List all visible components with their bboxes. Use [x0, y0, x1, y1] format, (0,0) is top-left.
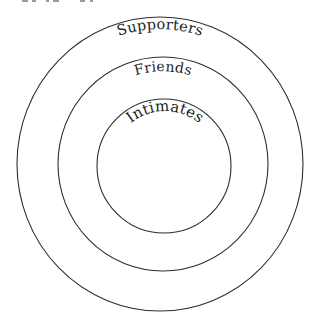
clipped-text-fragment: [22, 0, 93, 2]
label-friends: Friends: [132, 58, 194, 78]
inner-circle-intimates: [97, 99, 231, 233]
label-supporters: Supporters: [115, 16, 205, 39]
label-intimates: Intimates: [122, 97, 207, 127]
concentric-circles-diagram: Supporters Friends Intimates: [0, 0, 316, 323]
middle-circle-friends: [58, 57, 268, 271]
